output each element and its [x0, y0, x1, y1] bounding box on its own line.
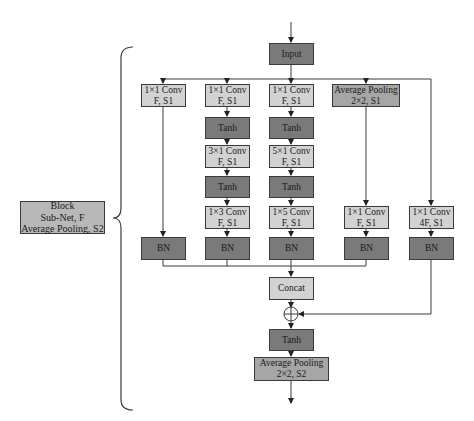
- node-params: 2×2, S2: [277, 369, 307, 380]
- node-label: Average Pooling: [260, 358, 323, 369]
- node-label: Average Pooling: [334, 85, 397, 96]
- branch1-bn-node: BN: [141, 237, 186, 260]
- output-tanh-node: Tanh: [269, 329, 314, 351]
- branch4-avgpool-node: Average Pooling 2×2, S1: [332, 84, 400, 107]
- concat-node: Concat: [269, 277, 314, 300]
- branch3-conv5x1-node: 5×1 Conv F, S1: [269, 145, 314, 168]
- node-label: BN: [285, 243, 298, 254]
- block-summary-box: Block Sub-Net, F Average Pooling, S2: [20, 201, 105, 234]
- node-label: Tanh: [282, 182, 301, 193]
- branch1-conv1x1-node: 1×1 Conv F, S1: [141, 84, 186, 107]
- node-label: 1×1 Conv: [413, 207, 451, 218]
- branch2-conv1x3-node: 1×3 Conv F, S1: [205, 206, 250, 229]
- node-label: Tanh: [218, 123, 237, 134]
- node-params: F, S1: [282, 218, 301, 229]
- node-label: 1×1 Conv: [348, 207, 386, 218]
- node-label: 1×5 Conv: [273, 207, 311, 218]
- node-params: F, S1: [282, 157, 301, 168]
- branch2-tanh2-node: Tanh: [205, 176, 250, 198]
- residual-conv1x1-4f-node: 1×1 Conv 4F, S1: [409, 206, 454, 229]
- branch2-conv3x1-node: 3×1 Conv F, S1: [205, 145, 250, 168]
- branch3-tanh2-node: Tanh: [269, 176, 314, 198]
- node-params: F, S1: [218, 218, 237, 229]
- block-title: Block: [51, 200, 75, 212]
- residual-bn-node: BN: [409, 237, 454, 260]
- node-label: 1×1 Conv: [145, 85, 183, 96]
- node-label: 1×1 Conv: [209, 85, 247, 96]
- node-params: F, S1: [282, 96, 301, 107]
- node-label: Tanh: [282, 335, 301, 346]
- branch4-conv1x1-node: 1×1 Conv F, S1: [344, 206, 389, 229]
- input-label: Input: [281, 49, 301, 60]
- node-label: 1×3 Conv: [209, 207, 247, 218]
- node-label: 5×1 Conv: [273, 146, 311, 157]
- node-label: BN: [360, 243, 373, 254]
- node-params: F, S1: [357, 218, 376, 229]
- node-label: 3×1 Conv: [209, 146, 247, 157]
- node-label: Tanh: [282, 123, 301, 134]
- branch2-conv1x1-node: 1×1 Conv F, S1: [205, 84, 250, 107]
- node-label: 1×1 Conv: [273, 85, 311, 96]
- output-avgpool-node: Average Pooling 2×2, S2: [254, 357, 329, 381]
- branch4-bn-node: BN: [344, 237, 389, 260]
- branch3-conv1x5-node: 1×5 Conv F, S1: [269, 206, 314, 229]
- block-pooling: Average Pooling, S2: [21, 223, 103, 235]
- node-params: 4F, S1: [419, 218, 443, 229]
- node-params: F, S1: [154, 96, 173, 107]
- branch3-bn-node: BN: [269, 237, 314, 260]
- node-params: F, S1: [218, 157, 237, 168]
- branch2-bn-node: BN: [205, 237, 250, 260]
- node-label: BN: [221, 243, 234, 254]
- node-label: Tanh: [218, 182, 237, 193]
- node-label: Concat: [278, 283, 305, 294]
- node-params: 2×2, S1: [351, 96, 381, 107]
- node-label: BN: [425, 243, 438, 254]
- node-params: F, S1: [218, 96, 237, 107]
- branch2-tanh1-node: Tanh: [205, 117, 250, 139]
- branch3-conv1x1-node: 1×1 Conv F, S1: [269, 84, 314, 107]
- block-subnet: Sub-Net, F: [41, 212, 85, 224]
- branch3-tanh1-node: Tanh: [269, 117, 314, 139]
- node-label: BN: [157, 243, 170, 254]
- input-node: Input: [269, 43, 314, 65]
